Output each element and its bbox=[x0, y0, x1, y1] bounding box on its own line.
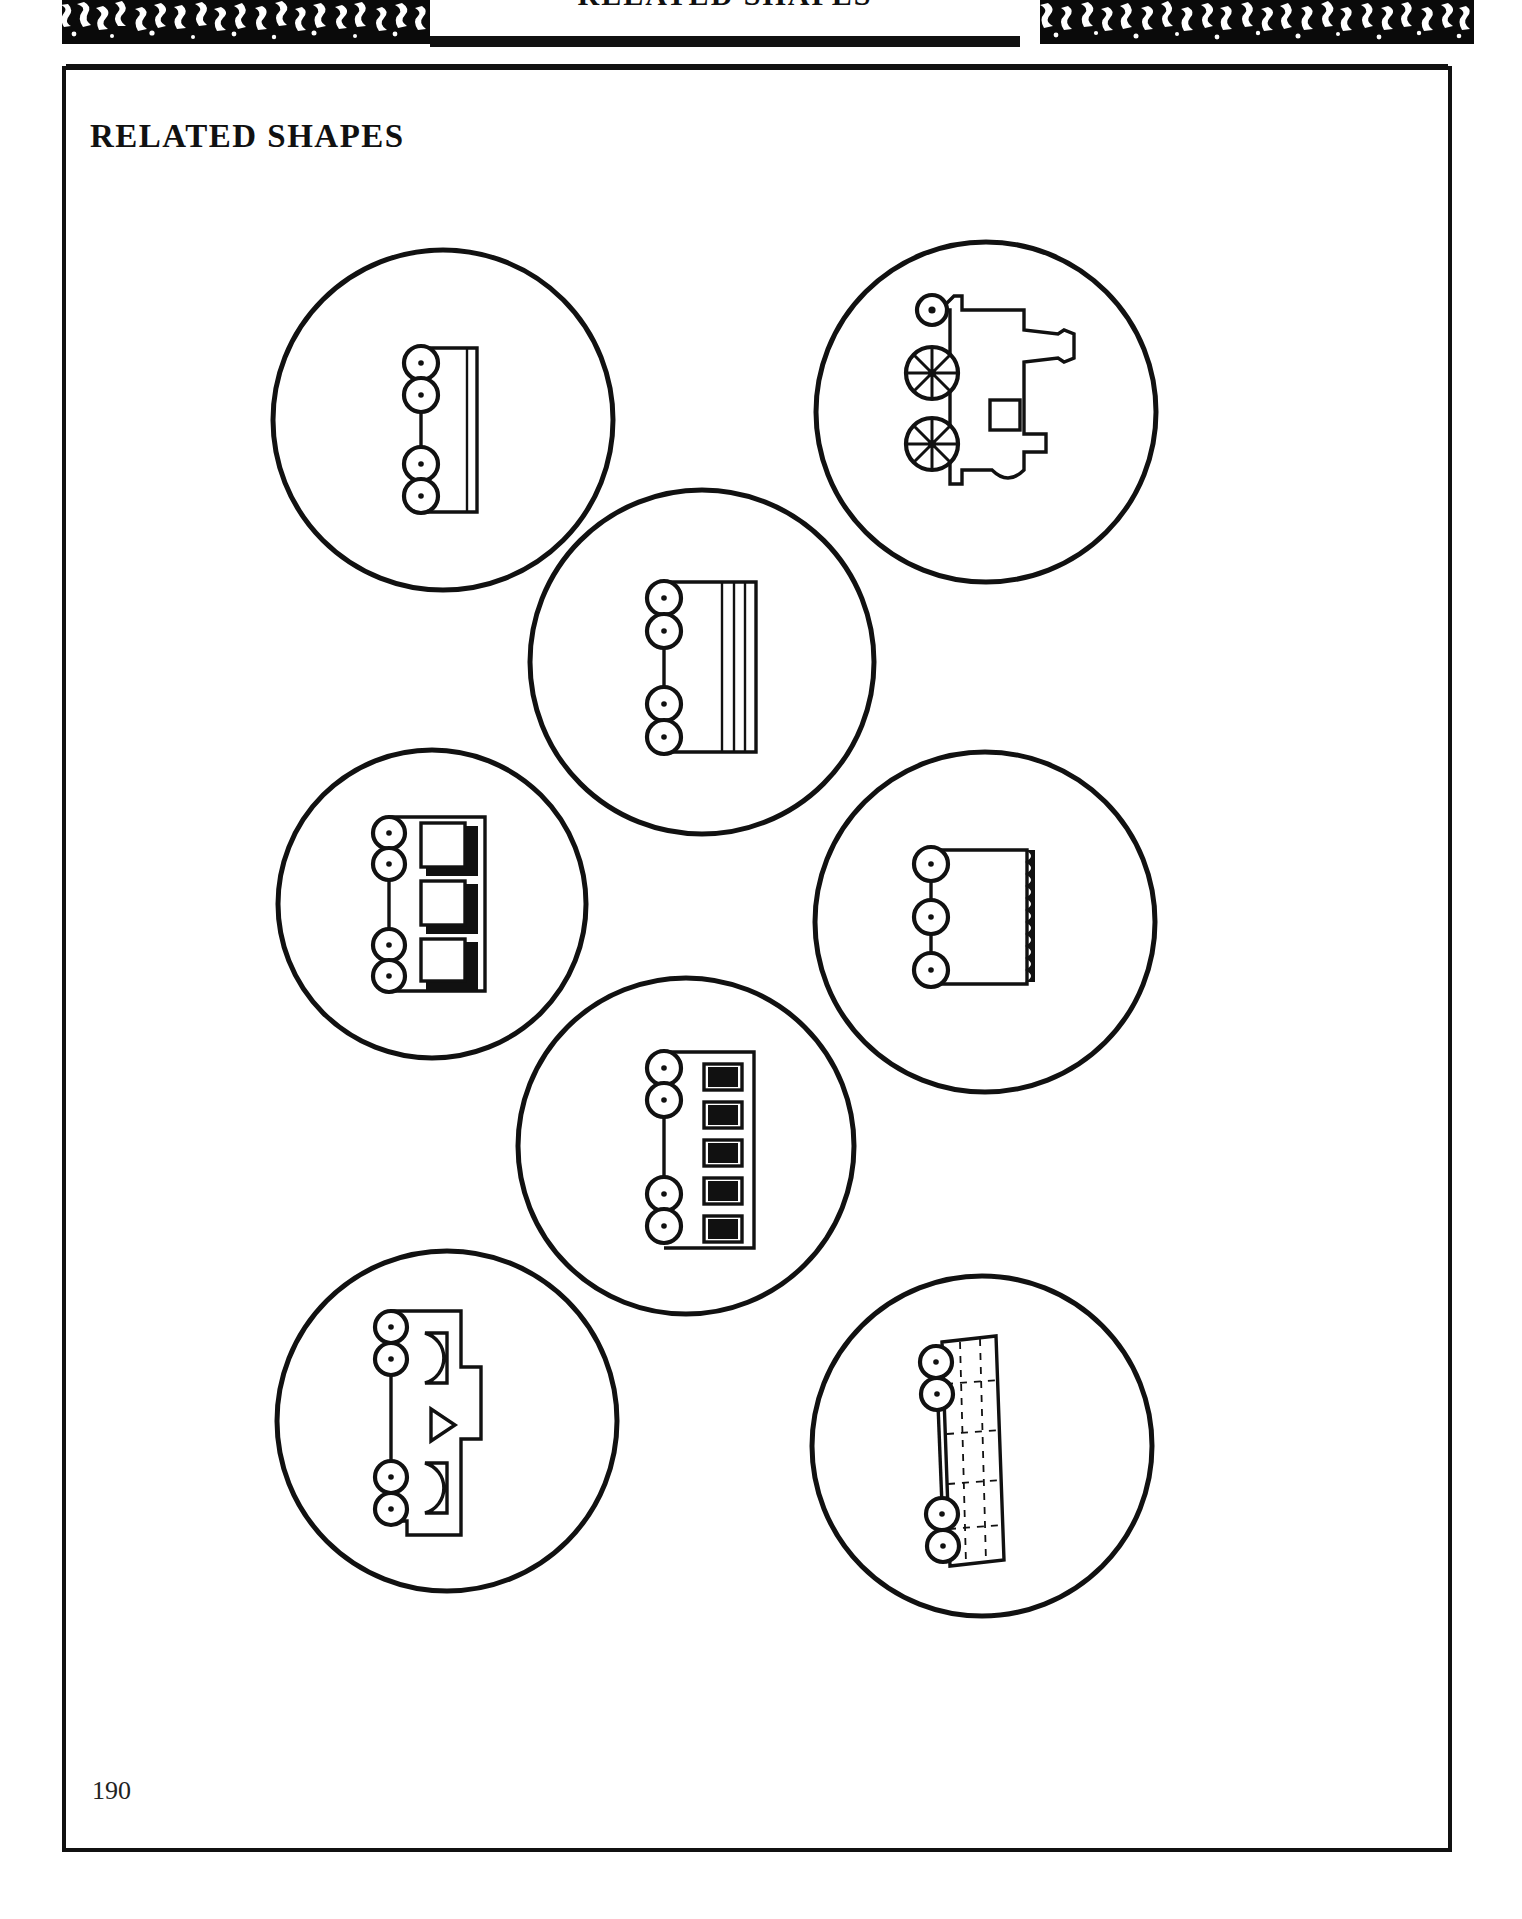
opening-2 bbox=[421, 881, 477, 933]
marbled-noise-texture-right bbox=[1040, 0, 1474, 44]
header-title-tab: RELATED SHAPES bbox=[430, 0, 1020, 47]
figure-hopper-ribbed-edge bbox=[813, 750, 1157, 1094]
figure-wagon-arched-openings bbox=[275, 1249, 619, 1593]
vignette-circle bbox=[815, 752, 1155, 1092]
page-title: RELATED SHAPES bbox=[90, 118, 405, 155]
page-frame-top-shadow bbox=[66, 64, 1448, 70]
page-frame: RELATED SHAPES bbox=[62, 66, 1452, 1852]
wheel-set bbox=[914, 847, 948, 987]
railcar-drawing bbox=[373, 817, 485, 992]
opening-3 bbox=[421, 939, 477, 989]
page-number: 190 bbox=[92, 1776, 131, 1806]
vignette-circle bbox=[812, 1276, 1152, 1616]
spoked-wheel-2 bbox=[906, 418, 958, 470]
spoked-wheel-1 bbox=[906, 347, 958, 399]
marbled-noise-texture-left bbox=[62, 0, 482, 44]
header-tab-title: RELATED SHAPES bbox=[430, 0, 1020, 12]
figure-flatcar-stake-deck bbox=[810, 1274, 1154, 1618]
header-texture-band: RELATED SHAPES bbox=[0, 0, 1522, 52]
opening-1 bbox=[421, 823, 477, 875]
window-set bbox=[704, 1064, 742, 1242]
